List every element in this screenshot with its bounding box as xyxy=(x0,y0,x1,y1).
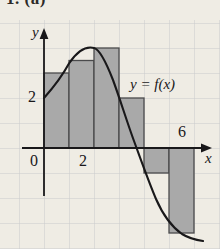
exercise-number-strip: 1. (a) xyxy=(0,0,220,20)
exercise-number: 1. (a) xyxy=(6,0,46,9)
riemann-bar xyxy=(144,148,169,173)
curve-equation-label: y = f(x) xyxy=(130,76,175,93)
figure-page: y x 2 0 2 6 y = f(x) 1. (a) xyxy=(0,0,220,249)
riemann-bar xyxy=(169,148,194,233)
riemann-bar xyxy=(69,61,94,149)
x-axis-label: x xyxy=(205,150,212,167)
x-tick-label-2: 2 xyxy=(79,152,87,170)
y-tick-label-2: 2 xyxy=(28,88,36,106)
x-tick-label-6: 6 xyxy=(178,123,186,141)
x-tick-label-0: 0 xyxy=(30,152,38,170)
y-axis-label: y xyxy=(32,24,39,41)
